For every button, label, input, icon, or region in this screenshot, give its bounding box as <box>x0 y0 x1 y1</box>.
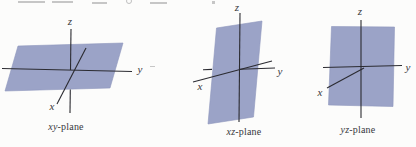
z-axis-label: z <box>67 15 73 27</box>
caption-math: yz <box>340 124 350 135</box>
yz-plane-diagram: z y x yz-plane <box>317 5 411 135</box>
z-axis-label: z <box>357 5 363 17</box>
xy-plane-diagram: z y x xy-plane <box>2 15 143 132</box>
figure-canvas: z y x xy-plane z y x xz-plane <box>0 0 416 147</box>
coordinate-planes-figure: z y x xy-plane z y x xz-plane <box>0 0 416 147</box>
z-axis-label: z <box>234 1 240 13</box>
x-axis-label: x <box>49 100 55 112</box>
xz-plane-surface <box>208 21 262 124</box>
xz-plane-caption: xz-plane <box>226 126 262 137</box>
caption-math: xy <box>47 121 58 132</box>
caption-suffix: -plane <box>349 124 376 135</box>
xy-plane-surface <box>5 43 123 91</box>
y-axis-label: y <box>405 61 411 73</box>
x-axis-label: x <box>197 80 203 92</box>
z-axis-line <box>71 29 72 70</box>
caption-suffix: -plane <box>235 126 262 137</box>
yz-plane-caption: yz-plane <box>340 124 376 135</box>
y-axis-label: y <box>277 65 283 77</box>
xz-plane-diagram: z y x xz-plane <box>193 1 283 137</box>
y-axis-label: y <box>137 63 143 75</box>
caption-math: xz <box>226 126 236 137</box>
caption-suffix: -plane <box>58 121 85 132</box>
xy-plane-caption: xy-plane <box>47 121 84 132</box>
x-axis-label: x <box>317 86 323 98</box>
